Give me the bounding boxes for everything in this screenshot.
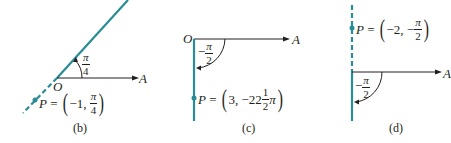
axis-label: A — [443, 67, 451, 80]
point-p — [192, 96, 197, 101]
panel-c: O A −π2 P = (3, −2212π) (c) — [150, 0, 300, 143]
panel-b: O A π4 P = (−1, π4) (b) — [0, 0, 150, 143]
angle-arc — [75, 60, 82, 78]
angle-label: π4 — [82, 52, 90, 77]
arrowhead-icon — [435, 70, 442, 75]
point-coordinates: P = (3, −2212π) — [198, 86, 285, 112]
arc-arrowhead-icon — [196, 66, 201, 71]
terminal-ray — [57, 0, 128, 78]
panel-d: A −π2 P = (−2, −π2) (d) — [300, 0, 451, 143]
caption-b: (b) — [73, 121, 87, 136]
angle-label: −π2 — [355, 75, 370, 100]
caption-d: (d) — [389, 121, 403, 136]
point-coordinates: P = (−2, −π2) — [356, 16, 430, 42]
arc-arrowhead-icon — [354, 100, 359, 105]
point-p — [33, 98, 38, 103]
axis-label: A — [139, 72, 147, 85]
angle-label: −π2 — [198, 41, 213, 66]
point-p — [350, 26, 355, 31]
arrowhead-icon — [283, 37, 290, 42]
caption-c: (c) — [242, 121, 255, 136]
point-coordinates: P = (−1, π4) — [39, 90, 106, 116]
axis-label: A — [292, 33, 300, 46]
polar-diagram-c — [150, 0, 300, 143]
origin-label: O — [183, 32, 192, 45]
arrowhead-icon — [132, 76, 139, 81]
